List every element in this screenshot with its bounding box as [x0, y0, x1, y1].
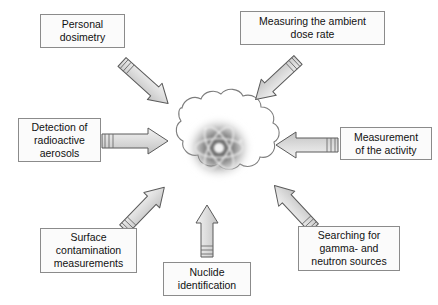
node-nuclide-identification[interactable]: Nuclide identification — [163, 262, 251, 296]
node-surface-contamination[interactable]: Surface contamination measurements — [40, 228, 137, 273]
arrow-body — [196, 205, 218, 257]
radiation-cloud — [176, 89, 279, 179]
arrow-ambient-dose-rate — [248, 52, 305, 108]
atom-electron-1 — [239, 139, 242, 142]
node-label: Measurement of the activity — [354, 131, 418, 157]
node-label: Detection of radioactive aerosols — [31, 121, 87, 160]
node-activity[interactable]: Measurement of the activity — [340, 127, 432, 160]
arrow-activity — [276, 132, 338, 158]
arrow-body — [102, 128, 168, 154]
atom-electron-2 — [203, 126, 206, 129]
arrow-nuclide-identification — [196, 205, 218, 257]
arrow-body — [115, 54, 176, 112]
node-label: Personal dosimetry — [60, 18, 106, 44]
arrow-personal-dosimetry — [115, 54, 176, 112]
arrow-aerosols — [102, 128, 168, 154]
atom-electron-3 — [201, 164, 204, 167]
node-label: Searching for gamma- and neutron sources — [311, 229, 386, 268]
node-label: Measuring the ambient dose rate — [259, 15, 366, 41]
node-ambient-dose-rate[interactable]: Measuring the ambient dose rate — [240, 11, 385, 45]
node-gamma-neutron-sources[interactable]: Searching for gamma- and neutron sources — [298, 226, 400, 271]
node-aerosols[interactable]: Detection of radioactive aerosols — [18, 118, 101, 162]
diagram-canvas: Personal dosimetry Measuring the ambient… — [0, 0, 438, 305]
node-label: Surface contamination measurements — [54, 231, 123, 270]
node-label: Nuclide identification — [178, 266, 236, 292]
arrow-body — [276, 132, 338, 158]
atom-nucleus — [214, 143, 224, 153]
arrow-body — [248, 52, 305, 108]
node-personal-dosimetry[interactable]: Personal dosimetry — [40, 14, 125, 48]
